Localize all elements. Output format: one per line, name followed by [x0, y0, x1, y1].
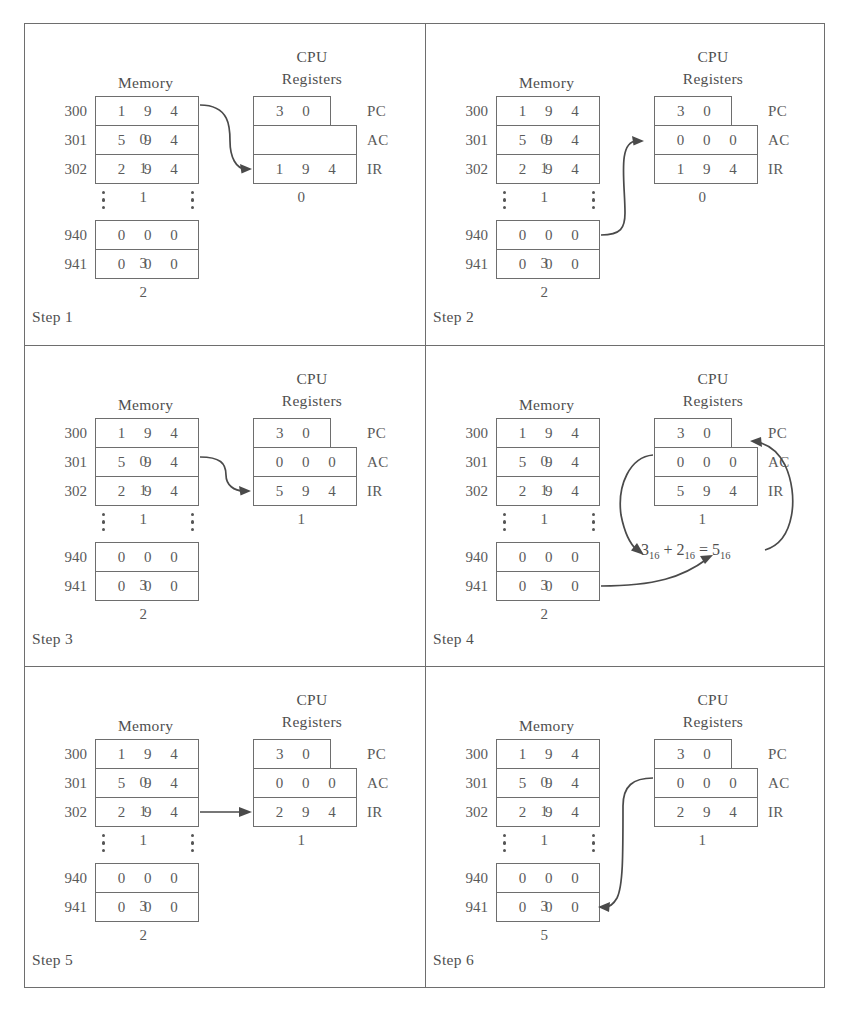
memory-heading: Memory	[519, 396, 574, 414]
memory-ellipsis-right	[191, 834, 194, 856]
memory-cell-302: 2 9 4 1	[496, 797, 600, 827]
register-ir: 5 9 4 1	[654, 476, 758, 506]
memory-address-302: 302	[51, 154, 87, 184]
memory-address-300: 300	[51, 739, 87, 769]
register-ir: 1 9 4 0	[654, 154, 758, 184]
step-panel-3: Memory CPU Registers 300 301 302 940 941…	[24, 345, 425, 667]
cpu-heading: CPU	[267, 48, 357, 66]
memory-cell-940: 0 0 0 3	[496, 220, 600, 250]
memory-cell-940: 0 0 0 3	[95, 542, 199, 572]
alu-operand-b: 2	[677, 541, 685, 558]
memory-cell-300: 1 9 4 0	[95, 96, 199, 126]
register-label-pc: PC	[768, 739, 787, 769]
memory-cell-941: 0 0 0 2	[95, 249, 199, 279]
memory-heading: Memory	[118, 717, 173, 735]
alu-operator: +	[664, 541, 673, 558]
memory-ellipsis-left	[102, 191, 105, 213]
memory-cell-941: 0 0 0 2	[496, 571, 600, 601]
register-label-ir: IR	[768, 797, 784, 827]
register-ac: 0 0 0 3	[253, 447, 357, 477]
step-panel-4: Memory CPU Registers 300 301 302 940 941…	[425, 345, 826, 667]
memory-ellipsis-left	[102, 513, 105, 535]
register-label-ac: AC	[367, 768, 388, 798]
step-caption: Step 5	[32, 951, 73, 969]
alu-result: 5	[712, 541, 720, 558]
register-label-ac: AC	[768, 125, 789, 155]
memory-address-940: 940	[51, 220, 87, 250]
step-caption: Step 3	[32, 630, 73, 648]
memory-cell-940: 0 0 0 3	[95, 863, 199, 893]
register-pc: 3 0 0	[654, 96, 732, 126]
memory-ellipsis-right	[191, 191, 194, 213]
memory-address-940: 940	[452, 863, 488, 893]
register-ir: 5 9 4 1	[253, 476, 357, 506]
cpu-heading: CPU	[668, 691, 758, 709]
register-label-pc: PC	[768, 96, 787, 126]
step-panel-2: Memory CPU Registers 300 301 302 940 941…	[425, 23, 826, 345]
memory-address-301: 301	[51, 125, 87, 155]
memory-cell-301: 5 9 4 1	[95, 768, 199, 798]
cpu-heading: CPU	[267, 691, 357, 709]
memory-address-301: 301	[452, 768, 488, 798]
memory-cell-302: 2 9 4 1	[496, 476, 600, 506]
memory-address-301: 301	[452, 447, 488, 477]
registers-heading: Registers	[653, 392, 773, 410]
alu-operand-a: 3	[641, 541, 649, 558]
step-panel-6: Memory CPU Registers 300 301 302 940 941…	[425, 666, 826, 988]
register-label-pc: PC	[367, 739, 386, 769]
memory-heading: Memory	[519, 74, 574, 92]
registers-heading: Registers	[653, 713, 773, 731]
step-caption: Step 4	[433, 630, 474, 648]
registers-heading: Registers	[252, 70, 372, 88]
program-execution-figure: Memory CPU Registers 300 301 302 940 941…	[0, 0, 849, 1011]
memory-cell-302: 2 9 4 1	[95, 476, 199, 506]
memory-ellipsis-right	[592, 513, 595, 535]
memory-address-302: 302	[452, 476, 488, 506]
memory-cell-300: 1 9 4 0	[496, 96, 600, 126]
memory-cell-300: 1 9 4 0	[95, 418, 199, 448]
alu-operand-b-base: 16	[685, 550, 696, 561]
memory-address-301: 301	[51, 768, 87, 798]
memory-cell-301: 5 9 4 1	[496, 125, 600, 155]
memory-ellipsis-left	[102, 834, 105, 856]
memory-cell-301: 5 9 4 1	[496, 447, 600, 477]
memory-address-300: 300	[51, 96, 87, 126]
memory-address-941: 941	[452, 571, 488, 601]
register-pc: 3 0 1	[654, 418, 732, 448]
memory-cell-302: 2 9 4 1	[95, 154, 199, 184]
register-ir: 1 9 4 0	[253, 154, 357, 184]
memory-cell-940: 0 0 0 3	[496, 542, 600, 572]
memory-address-941: 941	[51, 571, 87, 601]
memory-address-301: 301	[51, 447, 87, 477]
memory-ellipsis-left	[503, 513, 506, 535]
memory-cell-941: 0 0 0 2	[95, 571, 199, 601]
register-label-pc: PC	[367, 96, 386, 126]
step-caption: Step 2	[433, 308, 474, 326]
memory-cell-940: 0 0 0 3	[95, 220, 199, 250]
step-caption: Step 1	[32, 308, 73, 326]
memory-cell-300: 1 9 4 0	[496, 739, 600, 769]
memory-cell-300: 1 9 4 0	[496, 418, 600, 448]
register-label-ac: AC	[768, 447, 789, 477]
memory-ellipsis-left	[503, 834, 506, 856]
memory-address-302: 302	[452, 797, 488, 827]
alu-computation-note: 316 + 216 = 516	[641, 541, 731, 559]
memory-address-300: 300	[452, 739, 488, 769]
memory-cell-941: 0 0 0 5	[496, 892, 600, 922]
memory-cell-302: 2 9 4 1	[95, 797, 199, 827]
memory-ellipsis-right	[592, 834, 595, 856]
memory-heading: Memory	[118, 74, 173, 92]
memory-ellipsis-right	[592, 191, 595, 213]
registers-heading: Registers	[653, 70, 773, 88]
memory-cell-941: 0 0 0 2	[496, 249, 600, 279]
register-ac: 0 0 0 3	[654, 125, 758, 155]
register-pc: 3 0 2	[654, 739, 732, 769]
register-ac: 0 0 0 5	[654, 447, 758, 477]
register-label-ir: IR	[367, 797, 383, 827]
register-label-ir: IR	[367, 154, 383, 184]
memory-cell-941: 0 0 0 2	[95, 892, 199, 922]
memory-address-302: 302	[51, 476, 87, 506]
cpu-heading: CPU	[668, 48, 758, 66]
register-label-ac: AC	[367, 125, 388, 155]
register-ac: 0 0 0 5	[654, 768, 758, 798]
